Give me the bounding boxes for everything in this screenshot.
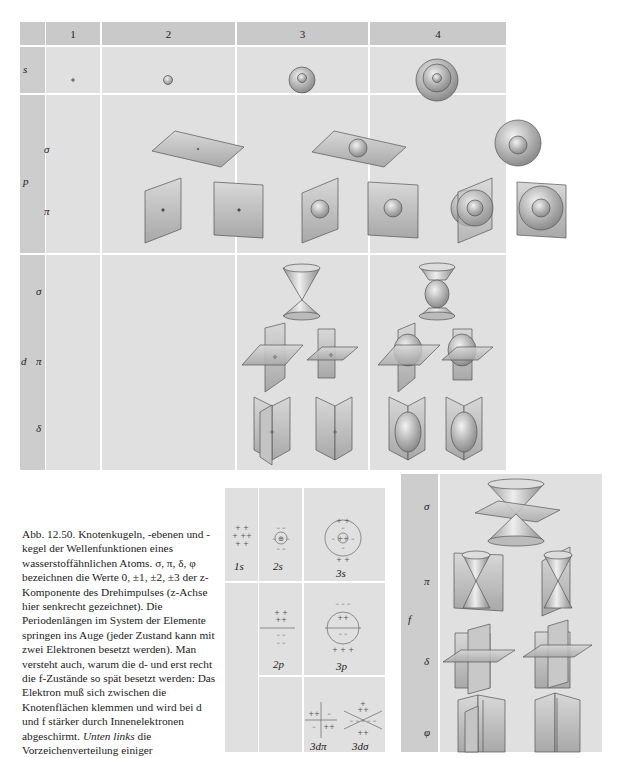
orbital-f-pi-icon xyxy=(454,547,572,616)
orbital-f-delta-icon xyxy=(443,620,592,694)
orbital-f-sigma-icon xyxy=(475,479,560,546)
orbital-f-phi-icon xyxy=(458,693,580,752)
